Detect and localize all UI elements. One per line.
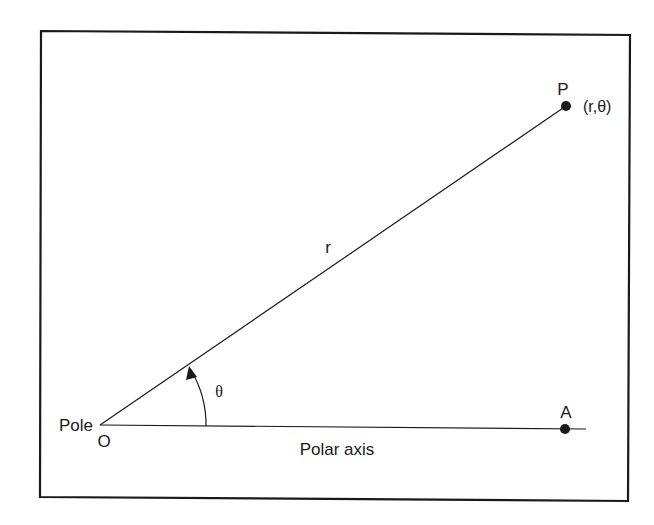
radius-label: r xyxy=(325,238,331,257)
angle-arc xyxy=(192,372,206,426)
polar-axis-line xyxy=(100,425,586,429)
polar-axis-label: Polar axis xyxy=(300,440,375,459)
point-p-label: P xyxy=(557,80,568,99)
point-p-coords-label: (r,θ) xyxy=(583,98,611,115)
polar-coordinates-diagram: Pole O P (r,θ) r θ A Polar axis xyxy=(0,0,654,525)
point-p-marker xyxy=(561,101,571,111)
origin-label: O xyxy=(97,432,110,451)
angle-label: θ xyxy=(215,383,223,400)
point-a-label: A xyxy=(560,403,572,422)
radius-line xyxy=(100,106,566,425)
diagram-frame xyxy=(40,31,630,501)
point-a-marker xyxy=(560,424,570,434)
pole-label: Pole xyxy=(59,416,93,435)
